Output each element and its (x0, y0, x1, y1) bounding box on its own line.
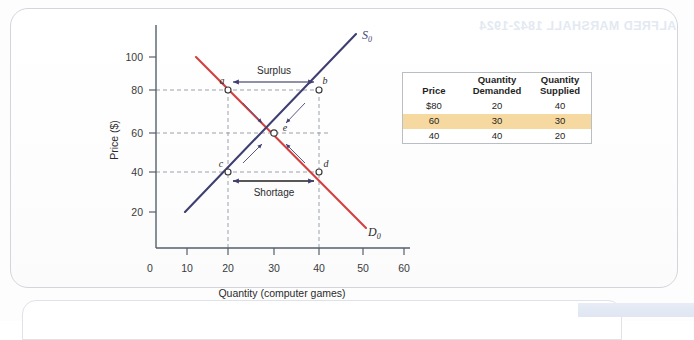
demand-curve-label: D0 (367, 225, 381, 241)
table-row: 40 40 20 (403, 129, 592, 144)
guide-lines (156, 90, 330, 248)
cell-quantity-demanded: 30 (465, 114, 529, 129)
y-axis-title: Price ($) (108, 120, 120, 160)
shortage-label: Shortage (254, 187, 295, 198)
arrow-shortage-left (243, 144, 262, 163)
data-point-labels: a b e c d (219, 75, 330, 169)
cell-price: 40 (403, 129, 465, 144)
table-header: Price Quantity Demanded Quantity Supplie… (403, 73, 592, 100)
point-c (225, 169, 231, 175)
supply-curve-label: S0 (362, 28, 372, 44)
shortage-annotation: Shortage (233, 181, 314, 198)
cell-quantity-supplied: 20 (529, 129, 591, 144)
point-label-a: a (220, 75, 225, 86)
cell-quantity-demanded: 40 (465, 129, 529, 144)
column-header-quantity-demanded: Quantity Demanded (465, 73, 529, 100)
x-axis-title: Quantity (computer games) (218, 287, 345, 299)
y-tick-100: 100 (125, 51, 143, 63)
cell-price: 60 (403, 114, 465, 129)
y-tick-20: 20 (131, 206, 143, 218)
arrow-surplus-right (286, 103, 305, 123)
y-axis-tick-labels: 100 80 60 40 20 (125, 51, 143, 218)
column-header-price: Price (403, 73, 465, 100)
point-label-d: d (324, 158, 330, 169)
point-label-b: b (323, 75, 328, 86)
cell-quantity-supplied: 30 (529, 114, 591, 129)
x-tick-20: 20 (222, 262, 234, 274)
cell-quantity-demanded: 20 (465, 99, 529, 114)
table-header-row: Price Quantity Demanded Quantity Supplie… (403, 73, 592, 100)
cell-quantity-supplied: 40 (529, 99, 591, 114)
table-body: $80 20 40 60 30 30 40 40 20 (403, 99, 592, 143)
arrow-surplus-left (243, 103, 262, 123)
point-label-e: e (283, 122, 288, 133)
x-axis-tick-labels: 0 10 20 30 40 50 60 (147, 262, 410, 274)
point-b (316, 87, 322, 93)
surplus-annotation: Surplus (233, 65, 314, 82)
x-tick-50: 50 (357, 262, 369, 274)
y-tick-40: 40 (131, 166, 143, 178)
y-axis-ticks (149, 57, 156, 212)
x-tick-10: 10 (181, 262, 193, 274)
x-tick-0: 0 (147, 262, 153, 274)
supply-curve (185, 34, 356, 212)
table-row: $80 20 40 (403, 99, 592, 114)
point-e (271, 130, 277, 136)
point-label-c: c (219, 158, 224, 169)
x-tick-60: 60 (398, 262, 410, 274)
x-axis-ticks (187, 248, 404, 255)
y-tick-60: 60 (131, 127, 143, 139)
cell-price: $80 (403, 99, 465, 114)
x-tick-40: 40 (313, 262, 325, 274)
point-d (316, 169, 322, 175)
x-tick-30: 30 (268, 262, 280, 274)
arrow-shortage-right (286, 144, 305, 163)
y-tick-80: 80 (131, 84, 143, 96)
axes (156, 25, 410, 248)
column-header-quantity-supplied: Quantity Supplied (529, 73, 591, 100)
table-row-highlighted: 60 30 30 (403, 114, 592, 129)
surplus-label: Surplus (257, 65, 291, 76)
point-a (225, 87, 231, 93)
supply-demand-table: Price Quantity Demanded Quantity Supplie… (402, 72, 592, 144)
